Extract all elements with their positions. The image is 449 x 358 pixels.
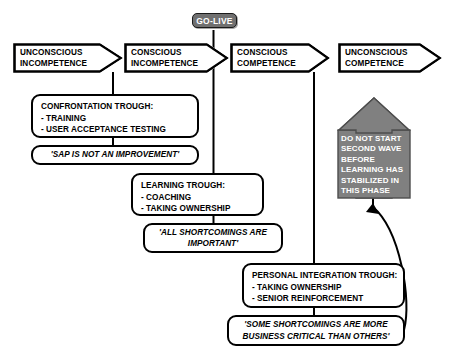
stage-line-1: CONSCIOUS — [237, 47, 330, 58]
go-live-label: GO-LIVE — [196, 16, 232, 26]
warning-text: DO NOT START SECOND WAVE BEFORE LEARNING… — [341, 134, 405, 196]
learning-trough-box: LEARNING TROUGH: - COACHING - TAKING OWN… — [131, 173, 264, 216]
stage-chevron-text: UNCONSCIOUS COMPETENCE — [345, 47, 442, 69]
trough-item: - TAKING OWNERSHIP — [141, 203, 254, 215]
go-live-badge: GO-LIVE — [192, 13, 237, 28]
confrontation-trough-box: CONFRONTATION TROUGH: - TRAINING - USER … — [31, 94, 199, 138]
stage-line-2: INCOMPETENCE — [20, 58, 123, 69]
warning-line: BEFORE — [341, 155, 405, 165]
quote-line: BUSINESS CRITICAL THAN OTHERS' — [235, 331, 397, 343]
stage-line-1: CONSCIOUS — [131, 47, 229, 58]
trough-item: - SENIOR REINFORCEMENT — [252, 293, 395, 305]
warning-line: STABILIZED IN — [341, 176, 405, 186]
trough-item: - USER ACCEPTANCE TESTING — [41, 124, 189, 136]
trough-heading: PERSONAL INTEGRATION TROUGH: — [252, 270, 395, 282]
personal-integration-trough-quote: 'SOME SHORTCOMINGS ARE MORE BUSINESS CRI… — [227, 315, 405, 346]
stage-chevron-text: UNCONSCIOUS INCOMPETENCE — [20, 47, 123, 69]
confrontation-trough-quote: 'SAP IS NOT AN IMPROVEMENT' — [31, 145, 199, 165]
quote-line: 'SOME SHORTCOMINGS ARE MORE — [235, 319, 397, 331]
stage-chevron-text: CONSCIOUS INCOMPETENCE — [131, 47, 229, 69]
warning-line: LEARNING HAS — [341, 165, 405, 175]
stage-line-2: COMPETENCE — [345, 58, 442, 69]
trough-heading: LEARNING TROUGH: — [141, 180, 254, 192]
stage-chevron-text: CONSCIOUS COMPETENCE — [237, 47, 330, 69]
trough-item: - TAKING OWNERSHIP — [252, 282, 395, 294]
personal-integration-trough-box: PERSONAL INTEGRATION TROUGH: - TAKING OW… — [242, 263, 405, 308]
stage-chevron-unconscious-incompetence: UNCONSCIOUS INCOMPETENCE — [13, 43, 123, 73]
stage-line-2: COMPETENCE — [237, 58, 330, 69]
learning-trough-quote: 'ALL SHORTCOMINGS ARE IMPORTANT' — [143, 223, 283, 253]
stage-chevron-conscious-incompetence: CONSCIOUS INCOMPETENCE — [124, 43, 229, 73]
warning-line: THIS PHASE — [341, 186, 405, 196]
trough-item: - TRAINING — [41, 113, 189, 125]
quote-line: 'ALL SHORTCOMINGS ARE — [151, 227, 275, 239]
warning-line: DO NOT START — [341, 134, 405, 144]
stage-chevron-conscious-competence: CONSCIOUS COMPETENCE — [230, 43, 330, 73]
warning-up-arrow: DO NOT START SECOND WAVE BEFORE LEARNING… — [336, 97, 412, 199]
trough-heading: CONFRONTATION TROUGH: — [41, 101, 189, 113]
stage-chevron-unconscious-competence: UNCONSCIOUS COMPETENCE — [338, 43, 442, 73]
quote-line: 'SAP IS NOT AN IMPROVEMENT' — [39, 149, 191, 161]
trough-item: - COACHING — [141, 192, 254, 204]
diagram-canvas: GO-LIVE UNCONSCIOUS INCOMPETENCE CONSCIO… — [0, 0, 449, 358]
stage-line-1: UNCONSCIOUS — [20, 47, 123, 58]
warning-line: SECOND WAVE — [341, 144, 405, 154]
quote-line: IMPORTANT' — [151, 238, 275, 250]
stage-line-2: INCOMPETENCE — [131, 58, 229, 69]
stage-line-1: UNCONSCIOUS — [345, 47, 442, 58]
